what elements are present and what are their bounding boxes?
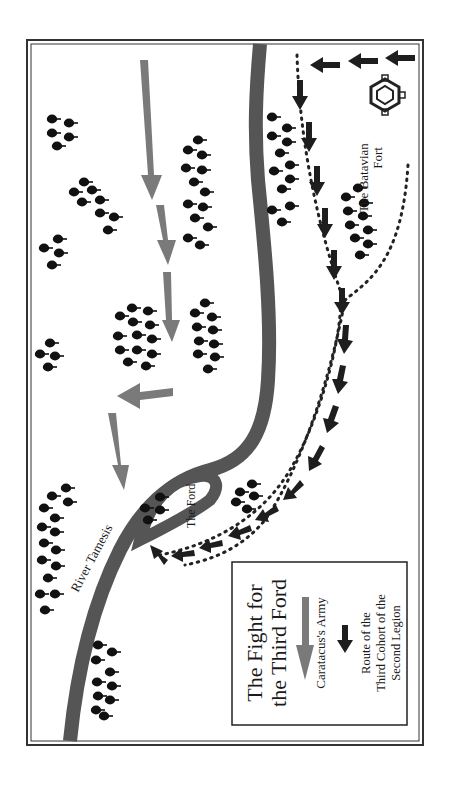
caratacus-army-arrows [108, 60, 180, 490]
fort-label-line2: Fort [370, 147, 385, 169]
legend-title-line1: The Fight for [242, 584, 267, 702]
ford-label: The Ford [184, 484, 198, 528]
legend-caratacus-label: Caratacus's Army [313, 597, 328, 689]
legend-title-line2: the Third Ford [266, 579, 291, 707]
fort-label-line1: The Batavian [356, 143, 371, 213]
legend-box: The Fight for the Third Ford Caratacus's… [232, 562, 407, 725]
fort-icon [371, 75, 405, 115]
legend-legion-line2: Third Cohort of the [374, 594, 388, 692]
legend-legion-line3: Second Legion [389, 605, 403, 681]
legend-legion-line1: Route of the [359, 612, 373, 674]
battle-map: River Tamesis The Ford The Batavian Fort… [0, 0, 450, 785]
